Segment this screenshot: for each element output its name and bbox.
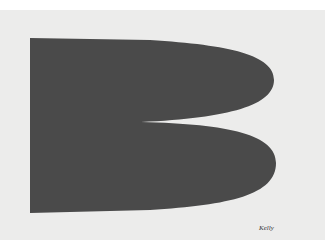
b-shape [0,0,325,248]
artist-signature: Kelly [259,224,274,232]
